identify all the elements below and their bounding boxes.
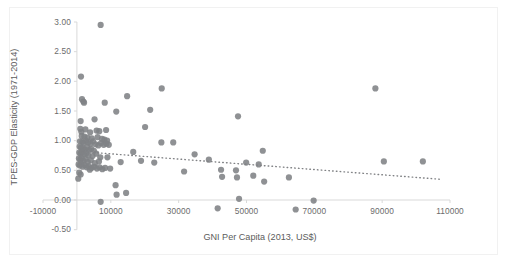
scatter-point	[96, 128, 102, 134]
x-tick-label: 70000	[284, 206, 344, 216]
x-axis-title: GNI Per Capita (2013, US$)	[120, 232, 400, 242]
scatter-point	[114, 192, 120, 198]
scatter-point	[158, 139, 164, 145]
scatter-point	[219, 174, 225, 180]
scatter-point	[78, 73, 84, 79]
scatter-point	[103, 127, 109, 133]
scatter-point	[151, 160, 157, 166]
scatter-point	[170, 139, 176, 145]
scatter-point	[372, 85, 378, 91]
scatter-point	[112, 182, 118, 188]
scatter-point	[96, 158, 102, 164]
scatter-point	[78, 118, 84, 124]
scatter-point	[98, 22, 104, 28]
scatter-point	[311, 197, 317, 203]
data-points-group	[75, 22, 426, 213]
scatter-point	[218, 167, 224, 173]
scatter-point	[234, 174, 240, 180]
scatter-point	[130, 149, 136, 155]
scatter-point	[236, 196, 242, 202]
scatter-point	[181, 168, 187, 174]
scatter-point	[250, 173, 256, 179]
scatter-point	[98, 199, 104, 205]
scatter-point	[118, 159, 124, 165]
scatter-point	[256, 161, 262, 167]
scatter-point	[87, 167, 93, 173]
scatter-point	[138, 158, 144, 164]
scatter-point	[147, 107, 153, 113]
y-axis-title: TPES-GDP Elasticity (1971-2014)	[9, 37, 19, 197]
x-tick-label: 50000	[217, 206, 277, 216]
scatter-point	[106, 142, 112, 148]
scatter-point	[102, 100, 108, 106]
scatter-point	[75, 176, 81, 182]
scatter-point	[124, 93, 130, 99]
scatter-point	[420, 158, 426, 164]
x-tick-label: 10000	[81, 206, 141, 216]
scatter-point	[113, 108, 119, 114]
scatter-point	[87, 129, 93, 135]
x-tick-label: 30000	[149, 206, 209, 216]
axes-group	[43, 22, 450, 230]
scatter-point	[123, 190, 129, 196]
y-tick-label: 3.00	[2, 17, 71, 27]
scatter-point	[286, 174, 292, 180]
scatter-point	[159, 85, 165, 91]
scatter-point	[107, 165, 113, 171]
y-tick-label: -0.50	[2, 224, 71, 234]
scatter-point	[235, 113, 241, 119]
scatter-point	[192, 151, 198, 157]
trendline	[94, 153, 440, 180]
scatter-point	[261, 179, 267, 185]
scatter-point	[260, 148, 266, 154]
x-tick-label: 90000	[352, 206, 412, 216]
scatter-point	[381, 158, 387, 164]
scatter-point	[233, 167, 239, 173]
scatter-point	[91, 116, 97, 122]
x-tick-label: -10000	[13, 206, 73, 216]
scatter-point	[81, 100, 87, 106]
scatter-chart: -0.500.000.501.001.502.002.503.00 -10000…	[0, 0, 507, 273]
scatter-point	[104, 154, 110, 160]
x-tick-label: 110000	[420, 206, 480, 216]
scatter-point	[142, 124, 148, 130]
trendline-group	[94, 153, 440, 180]
